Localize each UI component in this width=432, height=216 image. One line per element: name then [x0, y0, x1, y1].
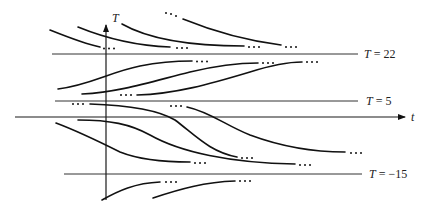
eq-22-value: 22 [383, 47, 395, 61]
eq-m15-sign: = [376, 167, 389, 181]
horizontal-axis-label: t [411, 110, 415, 124]
svg-text:T = 5: T = 5 [366, 94, 391, 108]
svg-text:T = 22: T = 22 [364, 47, 395, 61]
phase-diagram: T = 22 T = 5 T = −15 T t [0, 0, 432, 216]
svg-text:T = −15: T = −15 [369, 167, 407, 181]
solution-curve [58, 61, 192, 89]
solution-curve [153, 181, 235, 198]
ellipsis-icon [176, 47, 188, 49]
ellipsis-icon [285, 46, 297, 48]
ellipsis-icon [350, 152, 362, 154]
ellipsis-icon [120, 94, 132, 96]
solution-curve [78, 120, 295, 164]
ellipsis-icon [170, 105, 182, 107]
ellipsis-icon [241, 157, 253, 159]
ellipsis-icon [239, 180, 251, 182]
eq-m15-value: −15 [388, 167, 407, 181]
vertical-axis-label: T [112, 11, 120, 25]
ellipsis-icon [72, 103, 84, 105]
ellipsis-icon [165, 181, 177, 183]
curves-above-22 [50, 12, 297, 50]
equilibrium-line-minus-15: T = −15 [64, 167, 407, 181]
eq-5-value: 5 [385, 94, 391, 108]
eq-5-sign: = [373, 94, 386, 108]
ellipsis-icon [248, 46, 260, 48]
ellipsis-icon [299, 164, 311, 166]
solution-curve [90, 104, 237, 157]
solution-curve [82, 63, 258, 94]
solution-curve [187, 107, 345, 152]
curves-between-5-and-22 [58, 61, 318, 97]
ellipsis-icon [165, 12, 177, 17]
ellipsis-icon [262, 62, 274, 64]
solution-curve [183, 19, 281, 45]
solution-curve [56, 123, 190, 162]
eq-22-sign: = [371, 47, 384, 61]
curves-between-minus-15-and-5 [56, 103, 362, 166]
solution-curve [122, 24, 244, 46]
ellipsis-icon [196, 61, 208, 63]
solution-curve [102, 182, 160, 200]
ellipsis-icon [306, 61, 318, 63]
curves-below-minus-15 [102, 180, 251, 200]
ellipsis-icon [103, 48, 115, 50]
ellipsis-icon [194, 162, 206, 164]
